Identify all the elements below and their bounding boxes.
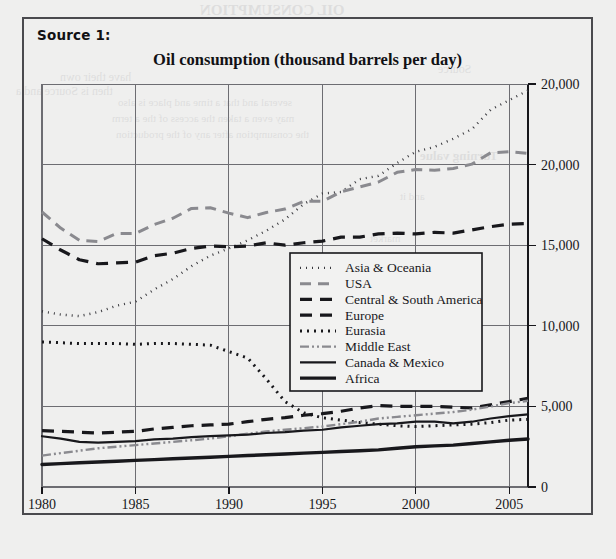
legend-label-asia-oceania: Asia & Oceania [345,260,431,275]
x-tick-label: 2000 [402,497,430,512]
x-tick-label: 2005 [495,497,523,512]
legend-label-middle-east: Middle East [345,339,411,354]
x-tick-label: 1990 [215,497,243,512]
y-tick-label: 5,000 [541,399,573,414]
legend-label-africa: Africa [345,371,379,386]
x-tick-label: 1985 [121,497,149,512]
x-tick-label: 1980 [28,497,56,512]
series-line-usa [42,152,528,242]
y-tick-label: 10,000 [541,319,580,334]
chart-legend: Asia & OceaniaUSACentral & South America… [290,253,483,391]
legend-label-usa: USA [345,276,372,291]
y-tick-label: 20,000 [541,158,580,173]
series-line-middle-east [42,401,528,456]
x-axis-tick-labels: 198019851990199520002005 [28,487,523,512]
legend-label-europe: Europe [345,308,384,323]
legend-label-eurasia: Eurasia [345,323,385,338]
line-chart: 05,00010,00015,00020,00020,000 198019851… [0,0,616,559]
legend-label-central-south-america: Central & South America [345,292,483,307]
y-axis-tick-labels: 05,00010,00015,00020,00020,000 [528,77,580,495]
series-line-central-south-america [42,398,528,433]
y-tick-label: 15,000 [541,238,580,253]
y-tick-label: 0 [541,480,548,495]
legend-label-canada-mexico: Canada & Mexico [345,355,444,370]
x-tick-label: 1995 [308,497,336,512]
y-tick-label: 20,000 [541,77,580,92]
